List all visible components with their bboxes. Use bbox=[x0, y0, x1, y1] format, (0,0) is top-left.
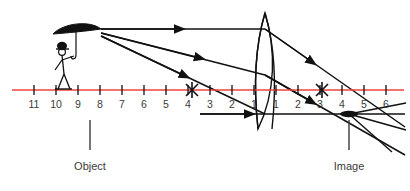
axis-label-9: 9 bbox=[75, 98, 81, 110]
ray-tail-a bbox=[349, 103, 406, 114]
axis-label-4: 4 bbox=[185, 98, 191, 110]
axis-label-2: 2 bbox=[229, 98, 235, 110]
image-caption: Image bbox=[334, 160, 365, 172]
object-caption: Object bbox=[74, 160, 106, 172]
axis-label-r3: 3 bbox=[317, 98, 323, 110]
figure-torso bbox=[62, 55, 64, 74]
image-point bbox=[340, 111, 358, 117]
umbrella-canopy-icon bbox=[53, 24, 101, 34]
axis-label-r6: 6 bbox=[383, 98, 389, 110]
axis-label-10: 10 bbox=[50, 98, 62, 110]
ray2-incident-arrow bbox=[101, 33, 200, 58]
axis-label-r4: 4 bbox=[339, 98, 345, 110]
axis-number-labels: 11 10 9 8 7 6 5 4 3 2 1 1 2 3 4 5 6 bbox=[29, 98, 390, 110]
axis-label-1: 1 bbox=[251, 98, 257, 110]
axis-label-3: 3 bbox=[207, 98, 213, 110]
figure-leg-right bbox=[64, 74, 70, 89]
axis-label-r1: 1 bbox=[273, 98, 279, 110]
ray3-incident-arrow bbox=[101, 36, 185, 76]
axis-label-r5: 5 bbox=[361, 98, 367, 110]
ray-through-left-focus bbox=[101, 33, 405, 155]
figure-arm-left bbox=[55, 60, 62, 70]
axis-label-6: 6 bbox=[141, 98, 147, 110]
figure-leg-left bbox=[58, 74, 64, 89]
axis-label-5: 5 bbox=[163, 98, 169, 110]
optics-diagram-svg: 11 10 9 8 7 6 5 4 3 2 1 1 2 3 4 5 6 Obje… bbox=[0, 0, 410, 191]
axis-label-8: 8 bbox=[97, 98, 103, 110]
axis-label-7: 7 bbox=[119, 98, 125, 110]
axis-label-11: 11 bbox=[29, 98, 40, 110]
object-figure bbox=[53, 24, 101, 89]
axis-label-r2: 2 bbox=[295, 98, 301, 110]
ray-diagram-canvas: 11 10 9 8 7 6 5 4 3 2 1 1 2 3 4 5 6 Obje… bbox=[0, 0, 410, 191]
image-blob bbox=[340, 111, 358, 117]
